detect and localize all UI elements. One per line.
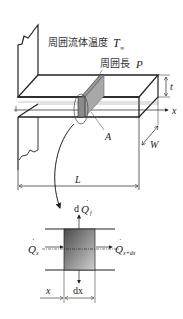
length-label: L — [74, 174, 81, 185]
axis-x-label: x — [171, 105, 177, 116]
svg-text:d: d — [74, 203, 79, 214]
q-out-label: Q · x+dx — [115, 235, 136, 256]
svg-text:dx: dx — [73, 285, 83, 296]
length-dimension: L — [18, 170, 138, 190]
q-in-label: Q · x — [28, 235, 39, 256]
svg-text:x: x — [45, 285, 51, 296]
x-axis: x — [14, 105, 177, 116]
x-position-label: x — [45, 285, 51, 296]
width-dimension: W — [139, 97, 160, 190]
svg-text:周囲流体温度: 周囲流体温度 — [48, 36, 108, 48]
conv-heat-label: d Q · f — [74, 196, 93, 216]
svg-text:A: A — [104, 131, 112, 142]
svg-text:x+dx: x+dx — [122, 250, 136, 256]
dx-label: dx — [73, 285, 83, 296]
svg-text:·: · — [86, 196, 89, 205]
svg-text:·: · — [32, 235, 35, 244]
zoom-arrow — [55, 124, 74, 208]
ambient-temp-label: 周囲流体温度 T ∞ — [48, 36, 124, 51]
svg-text:Q: Q — [28, 243, 36, 255]
thickness-dimension: t — [158, 75, 173, 97]
svg-text:Q: Q — [115, 243, 123, 255]
thickness-label: t — [170, 81, 173, 92]
svg-text:P: P — [135, 58, 143, 70]
width-label: W — [150, 139, 160, 150]
fin-heat-transfer-diagram: x t W L 周囲流体温度 T ∞ 周囲長 P A — [0, 0, 183, 319]
svg-text:周囲長: 周囲長 — [100, 58, 130, 69]
svg-text:·: · — [119, 235, 122, 244]
svg-text:∞: ∞ — [120, 45, 124, 51]
svg-text:x: x — [35, 250, 39, 256]
svg-text:f: f — [90, 210, 93, 216]
